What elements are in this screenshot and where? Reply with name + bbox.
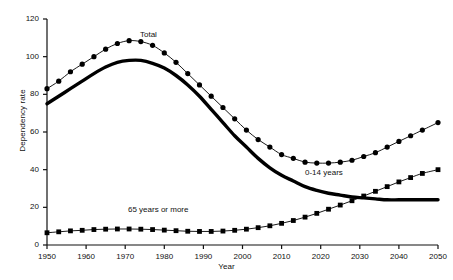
data-point	[361, 194, 366, 199]
x-tick-label: 2050	[418, 252, 453, 261]
data-point	[185, 71, 190, 76]
data-point	[256, 225, 261, 230]
data-point	[420, 171, 425, 176]
data-point	[45, 230, 50, 235]
y-tick-label: 20	[13, 202, 39, 211]
data-point	[173, 60, 178, 65]
data-point	[197, 82, 202, 87]
data-point	[162, 50, 167, 55]
x-tick-label: 2010	[262, 252, 302, 261]
data-point	[435, 120, 440, 125]
data-point	[103, 47, 108, 52]
data-point	[326, 207, 331, 212]
series-label-65-years-or-more: 65 years or more	[128, 205, 188, 214]
data-point	[338, 203, 343, 208]
y-tick-label: 40	[13, 165, 39, 174]
data-point	[138, 39, 143, 44]
data-point	[127, 227, 132, 232]
data-point	[209, 94, 214, 99]
x-tick-label: 1990	[183, 252, 223, 261]
data-point	[80, 62, 85, 67]
x-tick-label: 2000	[223, 252, 263, 261]
data-point	[162, 228, 167, 233]
data-point	[115, 227, 120, 232]
data-point	[244, 227, 249, 232]
data-point	[291, 218, 296, 223]
y-tick-label: 120	[13, 14, 39, 23]
data-point	[373, 150, 378, 155]
data-point	[350, 198, 355, 203]
data-point	[397, 180, 402, 185]
data-point	[68, 228, 73, 233]
dependency-rate-chart: Dependency rate Year Total 0-14 years 65…	[0, 0, 453, 280]
series-total	[44, 38, 440, 166]
data-point	[291, 156, 296, 161]
x-axis-title: Year	[0, 262, 453, 271]
data-point	[44, 86, 49, 91]
data-point	[174, 228, 179, 233]
x-tick-label: 1980	[144, 252, 184, 261]
data-point	[197, 229, 202, 234]
data-point	[338, 160, 343, 165]
data-point	[408, 133, 413, 138]
data-point	[326, 160, 331, 165]
data-point	[267, 223, 272, 228]
data-point	[232, 116, 237, 121]
data-point	[256, 137, 261, 142]
data-point	[150, 43, 155, 48]
data-point	[232, 228, 237, 233]
chart-plot-area	[0, 0, 453, 280]
x-tick-label: 1960	[66, 252, 106, 261]
series-65-years-or-more	[45, 167, 441, 235]
data-point	[56, 79, 61, 84]
x-tick-label: 2040	[379, 252, 419, 261]
y-tick-label: 100	[13, 52, 39, 61]
series-label-0-14-years: 0-14 years	[305, 168, 343, 177]
data-point	[150, 227, 155, 232]
data-point	[314, 211, 319, 216]
y-axis-title: Dependency rate	[18, 66, 27, 176]
data-point	[221, 229, 226, 234]
y-tick-label: 0	[13, 240, 39, 249]
data-point	[80, 228, 85, 233]
data-point	[103, 227, 108, 232]
y-tick-label: 60	[13, 127, 39, 136]
data-point	[279, 152, 284, 157]
series-0-14-years	[47, 60, 438, 200]
y-tick-label: 80	[13, 89, 39, 98]
data-point	[220, 105, 225, 110]
x-tick-label: 2020	[301, 252, 341, 261]
x-tick-label: 2030	[340, 252, 380, 261]
data-point	[361, 154, 366, 159]
data-point	[244, 128, 249, 133]
data-point	[385, 184, 390, 189]
data-point	[314, 160, 319, 165]
x-tick-label: 1970	[105, 252, 145, 261]
data-point	[91, 54, 96, 59]
data-point	[115, 41, 120, 46]
data-point	[209, 229, 214, 234]
data-point	[436, 167, 441, 172]
data-point	[385, 144, 390, 149]
data-point	[68, 69, 73, 74]
data-point	[92, 227, 97, 232]
series-line	[47, 60, 438, 200]
data-point	[396, 139, 401, 144]
data-point	[56, 229, 61, 234]
data-point	[185, 229, 190, 234]
data-point	[420, 128, 425, 133]
data-point	[303, 215, 308, 220]
data-point	[302, 160, 307, 165]
data-point	[373, 189, 378, 194]
data-point	[349, 158, 354, 163]
data-point	[267, 144, 272, 149]
data-point	[408, 175, 413, 180]
series-label-total: Total	[140, 30, 157, 39]
data-point	[138, 227, 143, 232]
series-line	[47, 170, 438, 233]
data-point	[279, 221, 284, 226]
x-tick-label: 1950	[27, 252, 67, 261]
data-point	[127, 38, 132, 43]
